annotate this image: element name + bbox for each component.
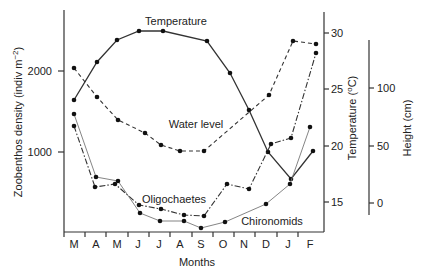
height-tick-50: 50 <box>377 140 389 152</box>
month-label: A <box>92 238 100 250</box>
month-label: M <box>112 238 121 250</box>
height-tick-100: 100 <box>377 82 395 94</box>
series-water-level <box>72 39 319 154</box>
label-water-level: Water level <box>169 118 224 130</box>
month-label: S <box>197 238 204 250</box>
height-axis-title: Height (cm) <box>401 100 413 157</box>
month-label: D <box>262 238 270 250</box>
month-label: M <box>69 238 78 250</box>
temperature-axis-title: Temperature (oC) <box>345 76 358 161</box>
month-label: F <box>307 238 314 250</box>
temp-tick-20: 20 <box>331 140 343 152</box>
left-tick-2000: 2000 <box>28 65 52 77</box>
temp-tick-25: 25 <box>331 83 343 95</box>
x-axis-title: Months <box>179 256 216 268</box>
month-label: J <box>135 238 141 250</box>
month-label: J <box>285 238 291 250</box>
label-temperature: Temperature <box>145 15 207 27</box>
left-axis-title: Zoobenthos density (indiv m−2) <box>11 47 24 197</box>
label-chironomids: Chironomids <box>241 215 303 227</box>
series-temperature <box>72 29 316 182</box>
temp-tick-15: 15 <box>331 196 343 208</box>
left-tick-1000: 1000 <box>28 146 52 158</box>
temp-tick-30: 30 <box>331 27 343 39</box>
month-label: J <box>156 238 162 250</box>
height-tick-0: 0 <box>377 197 383 209</box>
month-label: A <box>176 238 184 250</box>
zoobenthos-chart: 2000 1000 Zoobenthos density (indiv m−2)… <box>0 0 421 271</box>
month-label: N <box>240 238 248 250</box>
month-labels: M A M J J A S O N D J F <box>69 238 313 250</box>
label-oligochaetes: Oligochaetes <box>142 193 207 205</box>
month-label: O <box>219 238 228 250</box>
